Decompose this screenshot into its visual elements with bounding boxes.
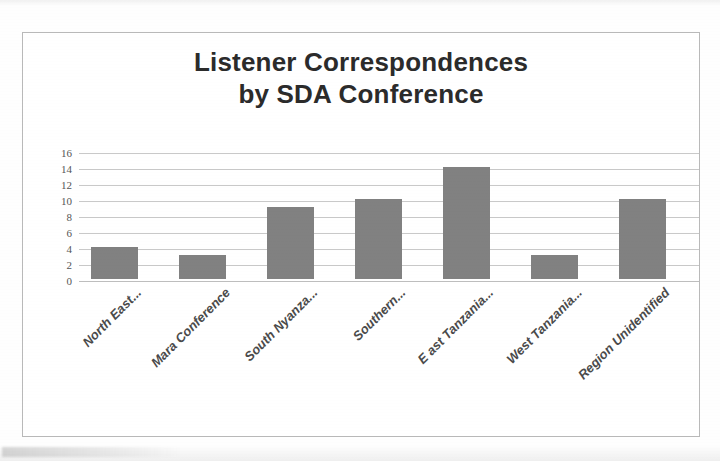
bar[interactable] [355, 199, 402, 279]
chart-title-line-2: by SDA Conference [23, 79, 699, 111]
scan-edge-top [0, 0, 720, 6]
chart-title-line-1: Listener Correspondences [23, 47, 699, 79]
category-label: Southern... [350, 285, 409, 344]
y-tick-label-14: 14 [61, 163, 72, 175]
y-tick-label-10: 10 [61, 195, 72, 207]
y-tick-label-6: 6 [67, 227, 73, 239]
y-tick-label-16: 16 [61, 147, 72, 159]
bar[interactable] [267, 207, 314, 279]
chart-frame: Listener Correspondences by SDA Conferen… [22, 32, 700, 437]
bar[interactable] [91, 247, 138, 279]
plot-area: 1614121086420 [79, 151, 699, 281]
category-label: North East... [80, 285, 145, 350]
category-label: Mara Conference [147, 285, 232, 370]
scanned-page: Listener Correspondences by SDA Conferen… [0, 0, 720, 461]
category-label: West Tanzania... [503, 285, 585, 367]
gridline-12: 12 [79, 185, 699, 186]
y-tick-label-2: 2 [67, 259, 73, 271]
y-tick-label-12: 12 [61, 179, 72, 191]
gridline-16: 16 [79, 153, 699, 154]
scan-smudge [2, 447, 182, 457]
bar[interactable] [443, 167, 490, 279]
category-label: E ast Tanzania... [415, 285, 497, 367]
y-tick-label-0: 0 [67, 275, 73, 287]
category-label: South Nyanza... [242, 285, 321, 364]
gridline-14: 14 [79, 169, 699, 170]
bar[interactable] [531, 255, 578, 279]
y-tick-label-8: 8 [67, 211, 73, 223]
chart-title: Listener Correspondences by SDA Conferen… [23, 47, 699, 110]
gridline-0: 0 [79, 281, 699, 282]
category-label: Region Unidentified [575, 285, 672, 382]
y-tick-label-4: 4 [67, 243, 73, 255]
bar[interactable] [619, 199, 666, 279]
bar[interactable] [179, 255, 226, 279]
